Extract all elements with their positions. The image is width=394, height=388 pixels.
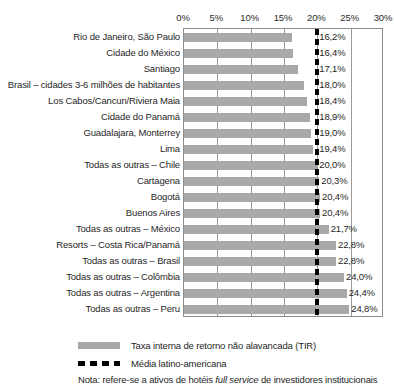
bar (184, 273, 344, 282)
legend-label-average: Média latino-americana (131, 358, 226, 370)
x-tick-label: 10% (240, 12, 259, 24)
note-prefix: Nota: refere-se a ativos de hotéis (78, 374, 215, 385)
bar (184, 161, 317, 170)
category-label: Todas as outras – Argentina (0, 287, 180, 298)
bar-layer (184, 29, 382, 316)
x-tick-label: 30% (374, 12, 393, 24)
x-tick-label: 0% (176, 12, 190, 24)
bar (184, 209, 320, 218)
category-label: Bogotá (0, 191, 180, 202)
bar (184, 113, 310, 122)
bar (184, 193, 320, 202)
irr-bar-chart: 0%5%10%15%20%25%30% Rio de Janeiro, São … (0, 0, 394, 388)
category-label: Todas as outras – Brasil (0, 255, 180, 266)
bar (184, 81, 304, 90)
bar (184, 289, 347, 298)
bar (184, 129, 311, 138)
category-label: Brasil – cidades 3-6 milhões de habitant… (0, 79, 180, 90)
category-label-column: Rio de Janeiro, São PauloCidade do Méxic… (0, 28, 180, 317)
dashed-line-swatch-icon (78, 361, 120, 366)
bar (184, 33, 292, 42)
x-tick-label: 20% (307, 12, 326, 24)
bar (184, 257, 336, 266)
category-label: Resorts – Costa Rica/Panamá (0, 239, 180, 250)
chart-note: Nota: refere-se a ativos de hotéis full … (78, 374, 377, 386)
average-reference-line (315, 29, 319, 316)
legend-item-average: Média latino-americana (78, 356, 394, 371)
bar (184, 241, 336, 250)
category-label: Los Cabos/Cancun/Riviera Maia (0, 95, 180, 106)
x-axis-tick-labels: 0%5%10%15%20%25%30% (0, 12, 394, 26)
x-tick-label: 25% (340, 12, 359, 24)
category-label: Buenos Aires (0, 207, 180, 218)
note-italic-term: full service (215, 374, 258, 385)
category-label: Todas as outras – Peru (0, 303, 180, 314)
category-label: Cidade do México (0, 47, 180, 58)
chart-legend: Taxa interna de retorno não alavancada (… (78, 338, 394, 374)
category-label: Guadalajara, Monterrey (0, 127, 180, 138)
legend-item-tir: Taxa interna de retorno não alavancada (… (78, 338, 394, 353)
bar (184, 177, 319, 186)
bar (184, 49, 293, 58)
bar (184, 225, 329, 234)
category-label: Todas as outras – México (0, 223, 180, 234)
category-label: Todas as outras – Colômbia (0, 271, 180, 282)
bar (184, 145, 313, 154)
category-label: Rio de Janeiro, São Paulo (0, 31, 180, 42)
category-label: Lima (0, 143, 180, 154)
category-label: Todas as outras – Chile (0, 159, 180, 170)
x-tick-label: 5% (210, 12, 224, 24)
category-label: Cartagena (0, 175, 180, 186)
legend-label-tir: Taxa interna de retorno não alavancada (… (131, 340, 316, 352)
category-label: Santiago (0, 63, 180, 74)
plot-area (183, 28, 383, 317)
bar (184, 305, 349, 314)
bar-swatch-icon (78, 342, 120, 349)
bar (184, 97, 307, 106)
x-tick-label: 15% (274, 12, 293, 24)
category-label: Cidade do Panamá (0, 111, 180, 122)
note-suffix: de investidores institucionais (258, 374, 377, 385)
bar (184, 65, 298, 74)
